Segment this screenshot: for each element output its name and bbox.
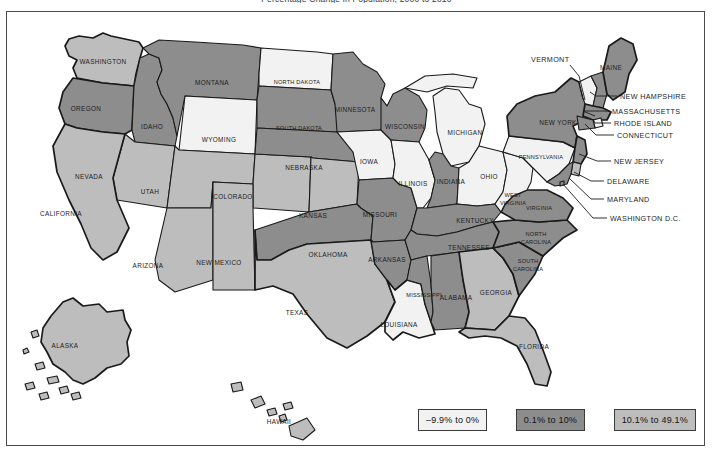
- us-choropleth-map: WASHINGTONOREGONIDAHOMONTANAWYOMINGNEVAD…: [7, 12, 703, 444]
- callout-label-delaware: DELAWARE: [607, 177, 650, 186]
- state-southdakota[interactable]: [257, 86, 343, 132]
- state-wyoming[interactable]: [179, 96, 257, 154]
- chart-title: Percentage Change in Population, 2000 to…: [0, 0, 713, 3]
- legend-label-1: 0.1% to 10%: [524, 415, 577, 425]
- legend: –9.9% to 0% 0.1% to 10% 10.1% to 49.1%: [418, 406, 696, 434]
- population-change-map-figure: Percentage Change in Population, 2000 to…: [0, 0, 713, 457]
- map-label-hawaii: HAWAII: [267, 418, 291, 425]
- legend-item-2[interactable]: 10.1% to 49.1%: [614, 409, 696, 431]
- state-kansas[interactable]: [309, 157, 359, 212]
- state-shapes-group: [23, 33, 637, 440]
- map-frame: WASHINGTONOREGONIDAHOMONTANAWYOMINGNEVAD…: [6, 11, 705, 446]
- callout-label-new-jersey: NEW JERSEY: [614, 157, 664, 166]
- legend-label-2: 10.1% to 49.1%: [622, 415, 688, 425]
- state-maine[interactable]: [603, 38, 637, 100]
- state-colorado[interactable]: [253, 154, 311, 212]
- callout-label-massachusetts: MASSACHUSETTS: [612, 107, 680, 116]
- callout-label-maryland: MARYLAND: [607, 195, 650, 204]
- state-northdakota[interactable]: [259, 48, 333, 90]
- legend-item-1[interactable]: 0.1% to 10%: [516, 409, 585, 431]
- legend-label-0: –9.9% to 0%: [426, 415, 479, 425]
- state-hawaii[interactable]: [231, 382, 315, 440]
- state-wisconsin[interactable]: [381, 88, 427, 142]
- callout-label-new-hampshire: NEW HAMPSHIRE: [620, 92, 686, 101]
- callout-label-washington-d-c-: WASHINGTON D.C.: [610, 214, 681, 223]
- state-minnesota[interactable]: [331, 52, 387, 132]
- state-dc[interactable]: [560, 181, 564, 186]
- callout-label-connecticut: CONNECTICUT: [617, 131, 673, 140]
- callout-label-vermont: VERMONT: [531, 55, 570, 64]
- state-massachusetts[interactable]: [583, 104, 611, 120]
- state-newmexico[interactable]: [213, 182, 255, 290]
- callout-label-rhode-island: RHODE ISLAND: [614, 119, 672, 128]
- legend-item-0[interactable]: –9.9% to 0%: [418, 409, 487, 431]
- state-alaska[interactable]: [41, 298, 131, 384]
